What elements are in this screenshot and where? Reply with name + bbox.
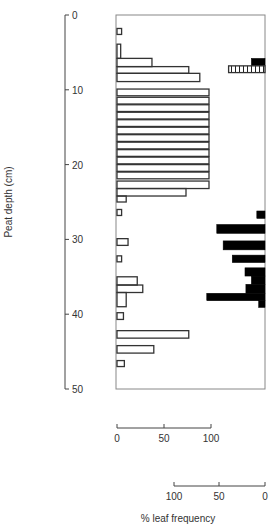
hatched-bar bbox=[229, 66, 265, 73]
open-bar bbox=[117, 28, 122, 34]
scale2-tick-100: 100 bbox=[166, 491, 183, 502]
open-bar bbox=[117, 239, 128, 246]
open-bar bbox=[117, 313, 123, 320]
open-bar bbox=[117, 189, 186, 196]
open-bar bbox=[117, 150, 209, 157]
scale1-tick-0: 0 bbox=[114, 433, 120, 444]
depth-tick-0: 0 bbox=[72, 10, 78, 21]
open-bar bbox=[117, 135, 209, 142]
open-bar bbox=[117, 105, 209, 112]
scale-right-to-left: 100 50 0 bbox=[166, 482, 269, 502]
open-bar bbox=[117, 346, 154, 353]
open-bar bbox=[117, 58, 152, 66]
depth-tick-40: 40 bbox=[72, 309, 84, 320]
open-bar bbox=[117, 165, 209, 172]
open-bar bbox=[117, 73, 200, 81]
open-bar bbox=[117, 89, 209, 96]
depth-tick-10: 10 bbox=[72, 85, 84, 96]
open-bar bbox=[117, 331, 189, 338]
solid-bar bbox=[246, 284, 265, 293]
open-bar bbox=[117, 361, 124, 367]
depth-axis: 01020304050 Peat depth (cm) bbox=[3, 10, 84, 395]
open-bar bbox=[117, 196, 126, 202]
core-diagram: 01020304050 Peat depth (cm) 0 50 100 100… bbox=[0, 0, 275, 527]
solid-bar bbox=[245, 268, 265, 276]
open-bar bbox=[117, 120, 209, 127]
scale1-tick-100: 100 bbox=[203, 433, 220, 444]
depth-tick-50: 50 bbox=[72, 384, 84, 395]
open-bar bbox=[117, 209, 122, 215]
scale-left-to-right: 0 50 100 bbox=[114, 424, 220, 444]
solid-bar-series bbox=[207, 58, 265, 307]
depth-tick-30: 30 bbox=[72, 234, 84, 245]
hatched-bar-series bbox=[229, 66, 265, 73]
open-bar bbox=[117, 97, 209, 104]
depth-tick-20: 20 bbox=[72, 160, 84, 171]
scale1-tick-50: 50 bbox=[158, 433, 170, 444]
depth-axis-title: Peat depth (cm) bbox=[3, 166, 14, 237]
open-bar bbox=[117, 181, 209, 188]
scale2-tick-0: 0 bbox=[262, 491, 268, 502]
solid-bar bbox=[251, 276, 265, 284]
solid-bar bbox=[257, 211, 265, 218]
solid-bar bbox=[207, 293, 265, 300]
frequency-axis-title: % leaf frequency bbox=[141, 513, 216, 524]
open-bar bbox=[117, 256, 122, 262]
open-bar bbox=[117, 112, 209, 119]
open-bar bbox=[117, 293, 126, 307]
solid-bar bbox=[217, 224, 265, 233]
open-bar bbox=[117, 172, 209, 179]
open-bar bbox=[117, 157, 209, 164]
open-bar bbox=[117, 67, 189, 74]
open-bar bbox=[117, 127, 209, 134]
solid-bar bbox=[259, 301, 265, 308]
open-bar bbox=[117, 142, 209, 149]
solid-bar bbox=[251, 58, 265, 65]
solid-bar bbox=[223, 241, 265, 250]
open-bar-series bbox=[117, 28, 209, 366]
open-bar bbox=[117, 44, 121, 58]
scale2-tick-50: 50 bbox=[213, 491, 225, 502]
solid-bar bbox=[232, 255, 265, 262]
open-bar bbox=[117, 285, 143, 292]
open-bar bbox=[117, 277, 137, 285]
